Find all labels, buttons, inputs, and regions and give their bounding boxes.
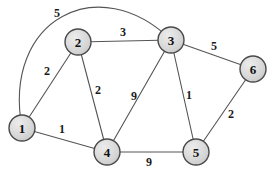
- edges-layer: [19, 7, 253, 152]
- edge-weight-3-6: 5: [211, 39, 217, 53]
- edge-weight-4-5: 9: [146, 155, 152, 169]
- graph-svg: 5213291592 123456: [0, 0, 274, 175]
- edge-3-5: [171, 40, 196, 152]
- edge-weight-3-5: 1: [186, 88, 192, 102]
- edge-5-6: [196, 69, 253, 152]
- node-label-1: 1: [19, 121, 26, 136]
- edge-weight-1-3: 5: [54, 6, 60, 20]
- edge-weight-1-4: 1: [59, 122, 65, 136]
- node-label-6: 6: [250, 62, 257, 77]
- node-label-3: 3: [168, 33, 175, 48]
- nodes-layer: 123456: [9, 27, 266, 165]
- edge-1-3: [19, 7, 171, 128]
- edge-weight-5-6: 2: [228, 107, 234, 121]
- edge-1-2: [22, 42, 78, 128]
- node-label-2: 2: [75, 35, 82, 50]
- node-label-5: 5: [193, 145, 200, 160]
- edge-2-4: [78, 42, 107, 152]
- edge-2-3: [78, 40, 171, 42]
- edge-weight-2-4: 2: [95, 83, 101, 97]
- graph-figure: 5213291592 123456: [0, 0, 274, 175]
- node-label-4: 4: [104, 145, 111, 160]
- edge-3-4: [107, 40, 171, 152]
- edge-weight-2-3: 3: [120, 25, 126, 39]
- edge-weight-1-2: 2: [44, 64, 50, 78]
- edge-weight-3-4: 9: [131, 89, 137, 103]
